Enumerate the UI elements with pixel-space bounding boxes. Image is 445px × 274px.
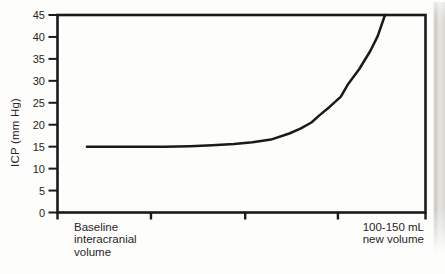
y-axis-tick-label: 5: [39, 185, 45, 197]
x-axis-annotation-baseline-volume: Baseline interacranial volume: [74, 221, 137, 258]
y-axis-tick-label: 20: [33, 119, 45, 131]
y-axis-tick-label: 0: [39, 207, 45, 219]
plot-frame: [58, 15, 426, 213]
x-axis-annotation-new-volume: 100-150 mL new volume: [330, 221, 424, 246]
y-axis-tick-label: 30: [33, 75, 45, 87]
y-axis-tick-label: 45: [33, 9, 45, 21]
figure-canvas: 051015202530354045 ICP (mm Hg) Baseline …: [0, 0, 445, 274]
y-axis-title: ICP (mm Hg): [5, 72, 25, 192]
y-axis-tick-label: 15: [33, 141, 45, 153]
y-axis-tick-label: 25: [33, 97, 45, 109]
page-edge-strip: [433, 2, 445, 253]
y-axis-tick-label: 35: [33, 53, 45, 65]
icp-curve: [87, 15, 385, 147]
y-axis-tick-label: 10: [33, 163, 45, 175]
y-axis-tick-label: 40: [33, 31, 45, 43]
